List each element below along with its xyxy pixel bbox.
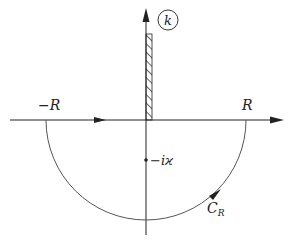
contour-label-main: C bbox=[207, 200, 218, 216]
plane-label-k: k bbox=[158, 10, 178, 30]
branch-cut bbox=[146, 34, 152, 120]
imaginary-axis-arrowhead bbox=[143, 8, 150, 22]
direction-arrow-icon bbox=[94, 117, 106, 123]
contour-direction-arrow-icon bbox=[209, 189, 221, 200]
real-axis-arrowhead bbox=[270, 117, 284, 124]
plane-label-text: k bbox=[164, 13, 172, 28]
contour-diagram: k −iϰ −R R CR bbox=[0, 0, 291, 241]
pole-point bbox=[144, 158, 148, 162]
neg-R-label: −R bbox=[38, 97, 61, 113]
pole-label: −iϰ bbox=[150, 153, 174, 168]
pos-R-label: R bbox=[241, 97, 253, 113]
contour-label: CR bbox=[207, 200, 225, 218]
contour-label-sub: R bbox=[217, 208, 225, 218]
